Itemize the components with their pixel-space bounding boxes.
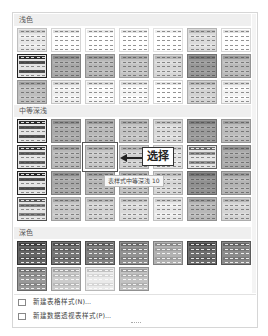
thumbnail-cell-mark xyxy=(21,49,24,50)
thumbnail-cell-mark xyxy=(26,36,29,37)
thumbnail-cell-mark xyxy=(123,166,126,167)
table-style-thumbnail[interactable] xyxy=(17,54,47,78)
thumbnail-cell-mark xyxy=(110,140,113,141)
table-style-thumbnail[interactable] xyxy=(153,80,183,104)
thumbnail-cell-mark xyxy=(42,122,45,123)
table-style-thumbnail[interactable] xyxy=(51,145,81,169)
table-style-thumbnail[interactable] xyxy=(187,54,217,78)
table-style-thumbnail[interactable] xyxy=(119,267,149,291)
table-style-thumbnail[interactable] xyxy=(85,80,115,104)
thumbnail-cell-mark xyxy=(42,253,45,254)
table-style-thumbnail[interactable] xyxy=(153,28,183,52)
table-style-thumbnail[interactable] xyxy=(187,28,217,52)
thumbnail-cell-mark xyxy=(31,140,34,141)
table-style-thumbnail[interactable] xyxy=(153,241,183,265)
table-style-thumbnail[interactable] xyxy=(51,241,81,265)
thumbnail-cell-mark xyxy=(144,205,147,206)
table-style-thumbnail[interactable] xyxy=(119,197,149,221)
new-pivot-style-label: 新建数据透视表样式(P)... xyxy=(33,312,111,320)
thumbnail-cell-mark xyxy=(246,66,249,67)
thumbnail-cell-mark xyxy=(157,262,160,263)
table-style-thumbnail[interactable] xyxy=(51,80,81,104)
table-style-thumbnail[interactable] xyxy=(187,197,217,221)
thumbnail-cell-mark xyxy=(230,45,233,46)
thumbnail-cell-mark xyxy=(196,148,199,149)
thumbnail-cell-mark xyxy=(26,166,29,167)
table-style-thumbnail[interactable] xyxy=(119,28,149,52)
table-style-thumbnail[interactable] xyxy=(221,54,251,78)
thumbnail-cell-mark xyxy=(26,101,29,102)
table-style-thumbnail[interactable] xyxy=(153,197,183,221)
thumbnail-cell-mark xyxy=(37,174,40,175)
thumbnail-cell-mark xyxy=(173,75,176,76)
table-style-thumbnail[interactable] xyxy=(17,119,47,143)
table-style-thumbnail[interactable] xyxy=(17,28,47,52)
thumbnail-cell-mark xyxy=(99,49,102,50)
table-style-thumbnail[interactable] xyxy=(221,119,251,143)
table-style-thumbnail[interactable] xyxy=(85,267,115,291)
table-style-thumbnail[interactable] xyxy=(17,145,47,169)
table-style-thumbnail[interactable] xyxy=(85,197,115,221)
table-style-thumbnail[interactable] xyxy=(119,119,149,143)
table-style-thumbnail[interactable] xyxy=(187,171,217,195)
table-style-thumbnail[interactable] xyxy=(17,241,47,265)
table-style-thumbnail[interactable] xyxy=(153,54,183,78)
table-style-thumbnail[interactable] xyxy=(51,28,81,52)
thumbnail-cell-mark xyxy=(128,153,131,154)
thumbnail-cell-mark xyxy=(201,88,204,89)
table-style-thumbnail[interactable] xyxy=(51,54,81,78)
thumbnail-cell-mark xyxy=(128,270,131,271)
table-style-thumbnail[interactable] xyxy=(119,241,149,265)
thumbnail-cell-mark xyxy=(207,62,210,63)
table-style-thumbnail[interactable] xyxy=(51,267,81,291)
table-style-thumbnail[interactable] xyxy=(187,119,217,143)
resize-grip[interactable] xyxy=(131,322,141,325)
thumbnail-cell-mark xyxy=(225,162,228,163)
thumbnail-cell-mark xyxy=(225,157,228,158)
thumbnail-cell-mark xyxy=(191,148,194,149)
table-style-thumbnail[interactable] xyxy=(119,80,149,104)
thumbnail-cell-mark xyxy=(26,127,29,128)
table-style-thumbnail[interactable] xyxy=(17,197,47,221)
thumbnail-cell-mark xyxy=(212,148,215,149)
scrollbar[interactable] xyxy=(252,14,256,293)
new-table-style-menu-item[interactable]: 新建表格样式(N)... xyxy=(15,296,91,309)
thumbnail-cell-mark xyxy=(65,153,68,154)
table-style-thumbnail[interactable] xyxy=(187,145,217,169)
thumbnail-cell-mark xyxy=(37,157,40,158)
table-style-thumbnail[interactable] xyxy=(187,241,217,265)
table-style-thumbnail[interactable] xyxy=(51,197,81,221)
thumbnail-cell-mark xyxy=(94,92,97,93)
table-style-thumbnail[interactable] xyxy=(187,80,217,104)
table-style-thumbnail[interactable] xyxy=(51,119,81,143)
thumbnail-cell-mark xyxy=(42,162,45,163)
table-style-thumbnail[interactable] xyxy=(221,197,251,221)
table-style-thumbnail[interactable] xyxy=(119,54,149,78)
thumbnail-cell-mark xyxy=(196,36,199,37)
table-style-thumbnail[interactable] xyxy=(17,267,47,291)
table-style-thumbnail[interactable] xyxy=(221,80,251,104)
thumbnail-cell-mark xyxy=(173,40,176,41)
new-pivot-style-menu-item[interactable]: 新建数据透视表样式(P)... xyxy=(15,310,111,323)
thumbnail-cell-mark xyxy=(241,162,244,163)
table-style-thumbnail[interactable] xyxy=(221,241,251,265)
thumbnail-cell-mark xyxy=(235,166,238,167)
thumbnail-cell-mark xyxy=(128,275,131,276)
table-style-thumbnail[interactable] xyxy=(153,119,183,143)
thumbnail-cell-mark xyxy=(99,57,102,58)
table-style-thumbnail[interactable] xyxy=(85,119,115,143)
table-style-thumbnail[interactable] xyxy=(51,171,81,195)
thumbnail-cell-mark xyxy=(123,253,126,254)
table-style-thumbnail[interactable] xyxy=(17,171,47,195)
table-style-thumbnail[interactable] xyxy=(17,80,47,104)
table-style-thumbnail[interactable] xyxy=(85,54,115,78)
table-style-thumbnail[interactable] xyxy=(221,145,251,169)
table-style-thumbnail[interactable] xyxy=(221,171,251,195)
thumbnail-cell-mark xyxy=(31,166,34,167)
thumbnail-cell-mark xyxy=(191,253,194,254)
table-style-thumbnail[interactable] xyxy=(85,28,115,52)
table-style-thumbnail[interactable] xyxy=(221,28,251,52)
table-style-thumbnail[interactable] xyxy=(85,241,115,265)
thumbnail-cell-mark xyxy=(31,218,34,219)
thumbnail-cell-mark xyxy=(241,131,244,132)
